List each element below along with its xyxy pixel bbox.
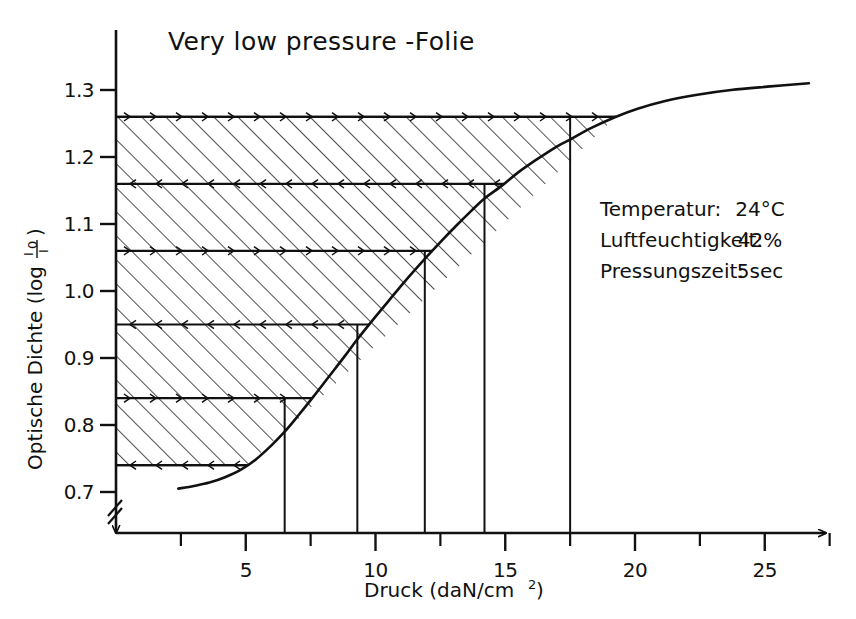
y-tick-label: 0.7 [64,480,94,504]
x-axis-ticks: 510152025 [181,533,830,582]
legend: Temperatur:24°CLuftfeuchtigkeit:42%Press… [599,197,785,283]
y-axis-title-text: Optische Dichte (log [23,266,47,470]
fraction-denominator: I [36,249,51,253]
y-axis-title-suffix: ) [23,228,47,236]
fraction-numerator: I [21,252,36,256]
legend-value: 42% [738,228,782,252]
legend-label: Temperatur: [599,197,721,221]
y-axis-title: Optische Dichte (log I 0 I ) [21,228,51,470]
y-tick-label: 1.3 [64,78,94,102]
legend-value: 5sec [737,259,783,283]
y-tick-label: 1.1 [64,212,94,236]
fraction-numerator-subscript: 0 [25,241,40,249]
x-axis-title-suffix: ) [536,578,544,602]
y-tick-label: 0.8 [64,413,94,437]
x-tick-label: 5 [240,558,252,582]
chart-title: Very low pressure -Folie [168,27,475,56]
x-tick-label: 20 [623,558,647,582]
y-axis-title-fraction: I 0 I [21,240,51,258]
chart-canvas: 0.70.80.91.01.11.21.3 510152025 Very low… [0,0,856,619]
x-axis-title-text: Druck (daN/cm [364,578,514,602]
x-tick-label: 25 [753,558,777,582]
y-tick-label: 1.2 [64,145,94,169]
legend-value: 24°C [735,197,784,221]
shaded-region [116,117,616,465]
y-tick-label: 1.0 [64,279,94,303]
y-axis-ticks: 0.70.80.91.01.11.21.3 [64,78,116,504]
chart-figure: 0.70.80.91.01.11.21.3 510152025 Very low… [0,0,856,619]
legend-label: Pressungszeit: [600,259,744,283]
y-tick-label: 0.9 [64,346,94,370]
